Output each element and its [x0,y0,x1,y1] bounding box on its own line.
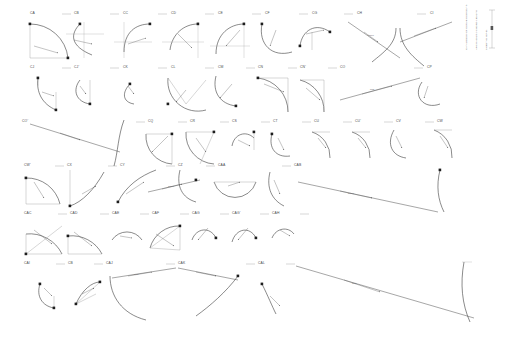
diagram-cj [37,77,58,112]
diagram-cz: R120 [148,170,200,202]
drawing-sheet: CA CB CC CD CE CF CG CH CI CJ CJ' CK CL … [0,0,506,344]
diagram-ct [271,133,290,157]
svg-text:R150: R150 [348,192,354,195]
diagram-cr [186,131,215,164]
diagram-cx [69,170,104,207]
diagram-cc [114,22,152,58]
diagram-cae [112,232,142,240]
diagram-cn [257,77,288,112]
diagram-caj: R60 [110,268,176,320]
diagram-cai [39,283,56,310]
diagram-cah [272,229,294,238]
diagram-cjp [76,80,91,105]
legend-rule [436,6,502,52]
diagram-cb [66,22,104,58]
diagram-co: R85 [340,78,420,100]
diagram-cm [215,76,237,107]
diagram-cy [117,170,156,203]
diagram-ce [210,22,250,58]
diagram-cb2 [75,281,102,306]
diagram-cu [312,132,330,158]
diagram-cp [418,82,440,105]
diagram-cop [30,120,124,166]
diagram-cab: R150 [269,169,444,212]
diagram-ck [124,83,134,104]
diagram-cw [434,130,452,158]
diagram-cl [167,78,206,111]
label-leaders [55,14,434,264]
diagram-cak [178,268,239,316]
diagram-cq [146,133,173,164]
diagram-cup [352,132,370,158]
svg-text:R120: R120 [168,185,174,188]
geometry-layer: R100 [0,0,506,344]
diagram-caa [214,182,256,197]
diagram-cnp [300,80,324,112]
diagram-cag [192,228,217,240]
diagram-cal: R85 [261,262,474,322]
diagram-cd [162,22,204,58]
diagram-cs [232,131,255,150]
svg-text:R60: R60 [134,273,139,276]
diagram-cwp [25,177,60,204]
diagram-cad [67,232,102,254]
diagram-cg [299,28,332,50]
diagram-cf [261,23,292,54]
diagram-caf [150,225,181,250]
diagram-ch: R100 [348,22,400,58]
legend-block: CATALOGUE OF CURVE ELEMENTS ARC RADIUS /… [436,6,502,52]
diagram-cv [390,130,406,158]
diagram-cac [25,226,62,255]
svg-text:R85: R85 [352,282,357,285]
svg-text:R85: R85 [370,88,375,91]
svg-text:R100: R100 [368,34,374,37]
diagram-cagp [232,228,257,242]
diagram-ca [29,23,70,60]
